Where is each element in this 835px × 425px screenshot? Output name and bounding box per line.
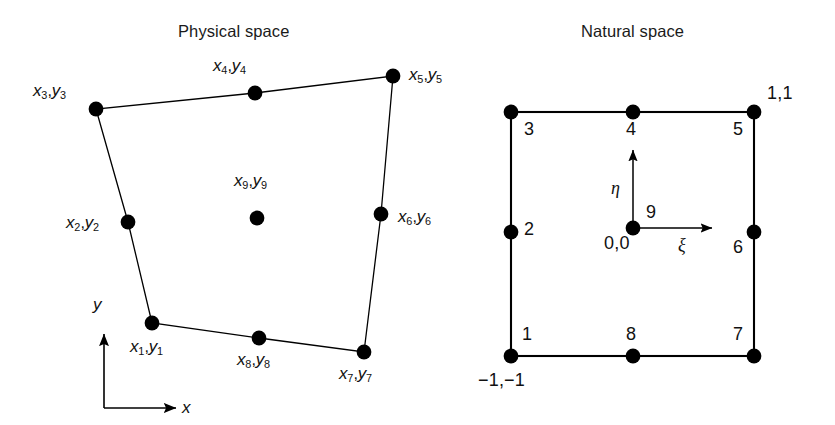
physical-node-label-6: x6,y6 [398, 208, 431, 227]
natural-corner-coordinate-1: −1,−1 [478, 371, 525, 389]
natural-node-4 [626, 105, 641, 120]
natural-node-label-9: 9 [646, 203, 656, 221]
physical-node-8 [252, 331, 267, 346]
physical-node-label-4: x4,y4 [213, 57, 246, 76]
natural-node-5 [747, 105, 762, 120]
natural-node-label-7: 7 [733, 325, 743, 343]
physical-node-4 [248, 86, 263, 101]
natural-node-label-8: 8 [626, 325, 636, 343]
natural-node-label-6: 6 [733, 238, 743, 256]
natural-corner-coordinate-0: 1,1 [767, 84, 793, 102]
natural-node-7 [747, 349, 762, 364]
physical-node-label-2: x2,y2 [66, 214, 99, 233]
natural-xi-axis-label: ξ [678, 236, 686, 254]
physical-node-3 [89, 102, 104, 117]
natural-node-label-5: 5 [733, 120, 743, 138]
physical-node-label-8: x8,y8 [237, 351, 270, 370]
natural-node-6 [747, 225, 762, 240]
natural-node-2 [504, 225, 519, 240]
natural-node-8 [626, 349, 641, 364]
natural-node-label-4: 4 [626, 120, 636, 138]
natural-node-3 [504, 105, 519, 120]
natural-eta-axis-label: η [611, 179, 620, 197]
physical-node-6 [374, 207, 389, 222]
physical-node-label-3: x3,y3 [33, 82, 66, 101]
physical-node-label-9: x9,y9 [234, 172, 267, 191]
physical-node-label-1: x1,y1 [130, 338, 163, 357]
natural-space-title: Natural space [581, 22, 684, 41]
physical-x-axis-label: x [182, 399, 191, 416]
physical-element-outline [96, 76, 393, 352]
physical-node-2 [121, 215, 136, 230]
physical-node-7 [357, 345, 372, 360]
natural-node-label-3: 3 [524, 120, 534, 138]
natural-node-label-1: 1 [522, 325, 532, 343]
physical-node-group [89, 69, 401, 360]
natural-origin-coordinate-label: 0,0 [604, 234, 630, 252]
natural-node-1 [504, 349, 519, 364]
physical-y-axis-label: y [93, 296, 102, 313]
physical-node-label-5: x5,y5 [409, 66, 442, 85]
figure-root: Physical space Natural space x y ξ η 0,0… [0, 0, 835, 425]
natural-node-label-2: 2 [524, 220, 534, 238]
physical-node-label-7: x7,y7 [339, 365, 372, 384]
physical-node-1 [145, 316, 160, 331]
physical-space-title: Physical space [178, 22, 289, 41]
physical-node-9 [250, 211, 265, 226]
physical-node-5 [386, 69, 401, 84]
natural-axes [633, 150, 712, 228]
